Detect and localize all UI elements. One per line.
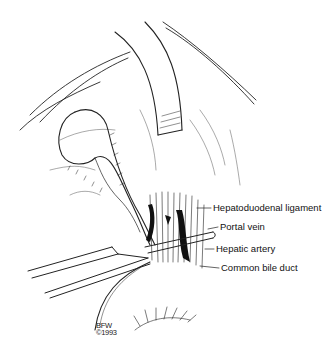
illustration-figure: Hepatoduodenal ligament Portal vein Hepa…: [0, 0, 333, 352]
ligament-structures: [150, 192, 204, 268]
forceps: [28, 247, 150, 298]
gallbladder: [59, 110, 155, 245]
label-portal-vein: Portal vein: [220, 222, 265, 232]
signature-year: ©1993: [96, 329, 117, 336]
pylorus-folds: [134, 307, 196, 330]
anatomy-drawing: [0, 0, 333, 352]
retractor-blade: [115, 22, 182, 135]
gallbladder-fringe: [68, 133, 124, 192]
label-hepatoduodenal-ligament: Hepatoduodenal ligament: [213, 203, 321, 213]
leader-lines: [197, 208, 219, 268]
label-hepatic-artery: Hepatic artery: [216, 244, 275, 254]
liver-hatching: [50, 110, 240, 195]
liver-outline: [20, 22, 256, 130]
duodenum: [95, 262, 150, 330]
artist-signature: BFW ©1993: [96, 322, 117, 336]
label-common-bile-duct: Common bile duct: [221, 263, 298, 273]
